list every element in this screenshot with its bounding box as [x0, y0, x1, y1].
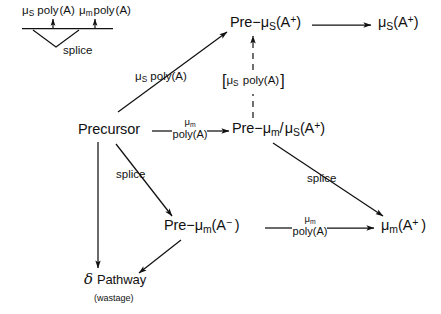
edge-label-mu-s-polya-diagonal: μS poly(A): [135, 70, 187, 85]
node-pre-mum-minus: Pre−μm(A− ): [164, 218, 240, 235]
inset-mu-s-polya-label: μS poly (A): [22, 4, 75, 18]
node-mum: μm(A+ ): [381, 218, 426, 235]
inset-mu-m-polya-label: μm poly (A): [79, 4, 131, 18]
edge-label-bracket-mu-s-polya: [μS poly(A) ]: [222, 72, 285, 90]
edge-label-splice-right: splice: [307, 172, 336, 184]
edge-label-mum-polya-lower: μm poly(A): [292, 214, 328, 237]
edge-pre-mum-minus-to-delta-pathway: [139, 240, 181, 273]
pathway-diagram: μS poly (A) μm poly (A) splice Precursor…: [0, 0, 441, 314]
node-precursor: Precursor: [78, 122, 140, 137]
edge-label-mum-polya-precursor: μm poly(A): [172, 117, 208, 140]
delta-icon: δ: [84, 270, 93, 288]
node-pre-mu-s: Pre−μS(A+): [230, 15, 301, 32]
inset-splice-label: splice: [63, 44, 92, 56]
node-mu-s: μS(A+): [378, 15, 418, 32]
delta-pathway-sublabel: (wastage): [94, 293, 134, 303]
edge-label-splice-lower-left: splice: [116, 168, 145, 180]
node-delta-pathway: δ Pathway: [84, 272, 146, 287]
node-pre-mum-mus: Pre−μm/ μS(A+): [232, 121, 325, 138]
